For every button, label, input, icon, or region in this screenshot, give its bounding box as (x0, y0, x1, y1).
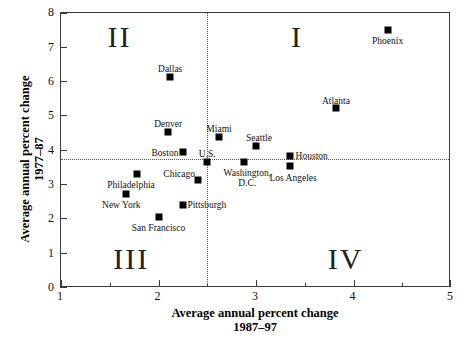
data-label-dallas: Dallas (158, 64, 182, 75)
data-label-san-francisco: San Francisco (132, 223, 186, 234)
y-tick-2 (60, 218, 67, 219)
data-point-new-york[interactable] (123, 190, 130, 197)
data-label-phoenix: Phoenix (372, 36, 403, 47)
data-label-boston: Boston (151, 148, 178, 159)
x-tick-4-5 (402, 283, 403, 287)
data-point-washington-dc[interactable] (241, 159, 248, 166)
y-tick-5 (60, 115, 67, 116)
y-tick-label-3: 3 (38, 177, 54, 192)
x-tick-1-5 (110, 283, 111, 287)
x-tick-label-5: 5 (447, 289, 453, 304)
data-label-washington-dc-line2: D.C. (238, 178, 256, 189)
data-point-pittsburgh[interactable] (179, 201, 186, 208)
y-tick-6 (60, 81, 67, 82)
y-tick-label-5: 5 (38, 108, 54, 123)
data-label-los-angeles: Los Angeles (269, 173, 316, 184)
data-point-phoenix[interactable] (384, 27, 391, 34)
data-point-san-francisco[interactable] (155, 213, 162, 220)
data-point-philadelphia[interactable] (134, 171, 141, 178)
x-tick-3-5 (305, 283, 306, 287)
y-tick-label-6: 6 (38, 74, 54, 89)
y-tick-label-8: 8 (38, 5, 54, 20)
data-label-washington-dc-line1: Washington, (224, 168, 272, 179)
x-tick-4 (354, 280, 355, 287)
data-label-chicago: Chicago (163, 169, 195, 180)
x-tick-5 (450, 280, 451, 287)
x-tick-label-2: 2 (155, 289, 161, 304)
x-axis-title-line1: Average annual percent change (171, 306, 338, 320)
y-tick-label-2: 2 (38, 211, 54, 226)
x-tick-label-3: 3 (252, 289, 258, 304)
data-label-new-york: New York (102, 200, 141, 211)
y-axis-title: Average annual percent change 1977–87 (18, 59, 46, 259)
data-label-us: U.S. (199, 149, 216, 160)
scatter-plot-figure: Average annual percent change 1977–87 0 … (0, 0, 461, 345)
y-tick-7 (60, 47, 67, 48)
data-label-miami: Miami (206, 124, 231, 135)
data-label-philadelphia: Philadelphia (107, 180, 155, 191)
x-tick-label-4: 4 (350, 289, 356, 304)
y-axis-title-line1: Average annual percent change (18, 75, 32, 242)
data-label-denver: Denver (154, 119, 182, 130)
y-tick-4 (60, 150, 67, 151)
data-point-los-angeles[interactable] (287, 163, 294, 170)
y-tick-label-1: 1 (38, 245, 54, 260)
y-tick-label-0: 0 (38, 280, 54, 295)
y-tick-3 (60, 184, 67, 185)
data-label-houston: Houston (296, 151, 328, 162)
quadrant-label-II: II (108, 22, 132, 52)
data-label-pittsburgh: Pittsburgh (187, 200, 226, 211)
reference-line-horizontal (61, 159, 449, 160)
x-tick-1 (61, 280, 62, 287)
y-tick-label-7: 7 (38, 39, 54, 54)
quadrant-label-I: I (291, 22, 303, 52)
x-axis-title-line2: 1987–97 (60, 320, 450, 334)
x-axis-title: Average annual percent change 1987–97 (60, 306, 450, 334)
x-tick-label-1: 1 (57, 289, 63, 304)
y-tick-8 (60, 13, 67, 14)
y-tick-label-4: 4 (38, 142, 54, 157)
quadrant-label-IV: IV (328, 244, 364, 274)
data-label-seattle: Seattle (246, 133, 272, 144)
plot-area: II I III IV Phoenix Dallas Atlanta Denve… (60, 12, 450, 287)
data-point-boston[interactable] (179, 149, 186, 156)
y-tick-1 (60, 253, 67, 254)
y-tick-0 (60, 287, 67, 288)
data-label-atlanta: Atlanta (322, 96, 350, 107)
x-tick-3 (256, 280, 257, 287)
y-axis-title-line2: 1977–87 (32, 59, 46, 259)
x-tick-2 (159, 280, 160, 287)
data-point-houston[interactable] (287, 152, 294, 159)
quadrant-label-III: III (113, 244, 149, 274)
